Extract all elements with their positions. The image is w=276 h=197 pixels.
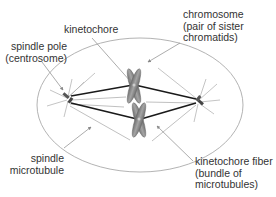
leader-spindle-pole [42,62,63,90]
label-kinetochore-fiber-line3: microtubules) [195,179,273,191]
label-chromosome-line1: chromosome [183,9,244,21]
label-spindle-microtubule-line2: microtubule [4,165,64,177]
label-spindle-microtubule: spindle microtubule [4,153,64,176]
astral-microtubules-right [158,68,220,122]
leader-chromosome [148,43,180,62]
label-kinetochore-fiber-line1: kinetochore fiber [195,156,273,168]
label-spindle-pole-line2: (centrosome) [5,53,67,65]
label-spindle-pole: spindle pole (centrosome) [5,41,67,64]
label-chromosome: chromosome (pair of sister chromatids) [183,9,244,44]
label-chromosome-line3: chromatids) [183,32,244,44]
kinetochore-upper [133,84,136,87]
mitotic-spindle-diagram: kinetochore spindle pole (centrosome) ch… [0,0,276,197]
leader-kinetochore [92,38,131,82]
label-kinetochore-line1: kinetochore [64,24,118,36]
cell-membrane [37,38,243,172]
label-kinetochore: kinetochore [64,24,118,36]
label-spindle-microtubule-line1: spindle [4,153,64,165]
astral-microtubules-left [47,73,95,117]
leader-spindle-microtubule [64,127,91,148]
label-kinetochore-fiber: kinetochore fiber (bundle of microtubule… [195,156,273,191]
kinetochore-lower [138,118,141,121]
leader-kinetochore-fiber [157,126,193,161]
label-spindle-pole-line1: spindle pole [5,41,67,53]
chromosome-lower [130,102,149,139]
